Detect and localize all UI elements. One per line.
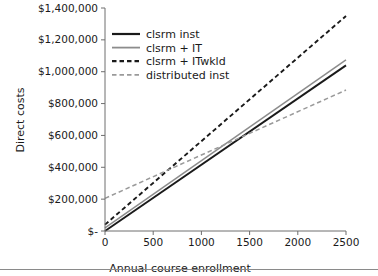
x-tick-label: 0 [102, 236, 109, 248]
y-axis-title: Direct costs [14, 87, 27, 152]
y-tick-label: $1,400,000 [38, 2, 98, 14]
x-tick-label: 2500 [333, 236, 360, 248]
y-tick-label: $1,000,000 [38, 65, 98, 77]
legend-label-clsrm-inst: clsrm inst [146, 28, 200, 41]
legend-label-clsrm-it: clsrm + IT [146, 42, 202, 55]
y-tick-label: $- [88, 225, 99, 237]
y-axis-ticks: $-$200,000$400,000$600,000$800,000$1,000… [38, 2, 105, 237]
x-tick-label: 1500 [236, 236, 263, 248]
legend-label-clsrm-itwkld: clsrm + ITwkld [146, 55, 226, 68]
y-tick-label: $400,000 [48, 161, 98, 173]
x-tick-label: 2000 [284, 236, 311, 248]
y-tick-label: $200,000 [48, 193, 98, 205]
legend-label-distributed-inst: distributed inst [146, 69, 230, 82]
x-axis-ticks: 05001000150020002500 [102, 231, 360, 248]
x-axis-title: Annual course enrollment [109, 262, 251, 275]
y-tick-label: $600,000 [48, 129, 98, 141]
line-chart: $-$200,000$400,000$600,000$800,000$1,000… [0, 0, 378, 276]
x-tick-label: 1000 [188, 236, 215, 248]
chart-figure: $-$200,000$400,000$600,000$800,000$1,000… [0, 0, 378, 276]
y-tick-label: $800,000 [48, 97, 98, 109]
x-tick-label: 500 [143, 236, 163, 248]
y-tick-label: $1,200,000 [38, 33, 98, 45]
